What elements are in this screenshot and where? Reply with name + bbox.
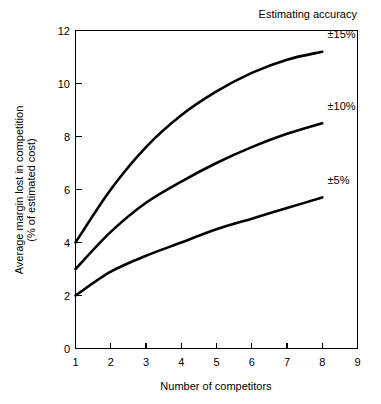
series-label-group: ±15%±10%±5%: [328, 28, 356, 186]
y-tick-label-4: 4: [64, 237, 70, 249]
x-axis-tick-labels: 1 2 3 4 5 6 7 8 9: [72, 356, 360, 368]
x-tick-label-7: 7: [284, 356, 290, 368]
x-tick-label-4: 4: [178, 356, 184, 368]
series-label-3: ±5%: [328, 174, 350, 186]
y-tick-label-12: 12: [58, 25, 70, 37]
plot-border: [76, 31, 358, 349]
x-tick-label-5: 5: [213, 356, 219, 368]
series-line-2: [76, 123, 323, 269]
x-axis-title: Number of competitors: [160, 380, 272, 392]
y-tick-label-2: 2: [64, 290, 70, 302]
x-tick-label-2: 2: [108, 356, 114, 368]
x-axis-ticks: [76, 343, 358, 349]
x-tick-label-6: 6: [249, 356, 255, 368]
x-tick-label-9: 9: [354, 356, 360, 368]
line-chart: 12 10 8 6 4 2 0 1 2 3 4 5 6: [0, 0, 381, 404]
y-axis-title-line1: Average margin lost in competition: [13, 106, 25, 275]
y-axis-ticks: [76, 31, 82, 349]
series-label-2: ±10%: [328, 100, 356, 112]
y-axis-tick-labels: 12 10 8 6 4 2 0: [58, 25, 70, 355]
chart-title: Estimating accuracy: [259, 8, 358, 20]
y-axis-title-line2: (% of estimated cost): [25, 138, 37, 241]
series-line-3: [76, 197, 323, 295]
x-tick-label-8: 8: [319, 356, 325, 368]
series-group: [76, 52, 323, 296]
y-tick-label-8: 8: [64, 131, 70, 143]
x-tick-label-1: 1: [72, 356, 78, 368]
chart-figure: 12 10 8 6 4 2 0 1 2 3 4 5 6: [0, 0, 381, 404]
series-label-1: ±15%: [328, 28, 356, 40]
plot-frame: [76, 31, 358, 349]
y-tick-label-10: 10: [58, 78, 70, 90]
y-axis-title: Average margin lost in competition (% of…: [13, 106, 37, 275]
series-line-1: [76, 52, 323, 243]
x-tick-label-3: 3: [143, 356, 149, 368]
y-tick-label-0: 0: [64, 343, 70, 355]
y-tick-label-6: 6: [64, 184, 70, 196]
